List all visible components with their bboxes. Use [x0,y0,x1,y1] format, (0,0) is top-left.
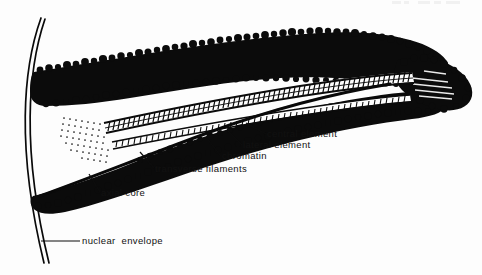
label-chromatin: chromatin [222,150,267,161]
label-central-element: central element [267,128,337,139]
label-axial-core: axial core [101,187,145,198]
synaptonemal-complex-diagram: central element lateral element chromati… [0,0,482,275]
label-transverse-filaments: transverse filaments [155,163,247,174]
figure-root: central element lateral element chromati… [0,0,482,275]
label-nuclear-envelope: nuclear envelope [82,235,163,246]
label-lateral-element: lateral element [243,139,311,150]
